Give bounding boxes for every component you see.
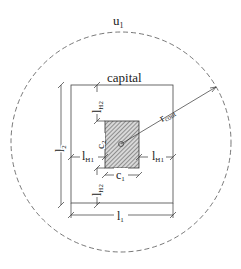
l2-dimension (58, 82, 64, 208)
column-section (105, 121, 139, 168)
capital-label: capital (107, 70, 142, 85)
c2-label: c2 (94, 140, 108, 149)
l2-label: l2 (53, 145, 68, 152)
perimeter-label: u1 (113, 13, 124, 30)
capital-diagram: u1 capital rcont l2 l1 lH2 (0, 0, 241, 269)
radius-label: rcont (157, 105, 178, 125)
